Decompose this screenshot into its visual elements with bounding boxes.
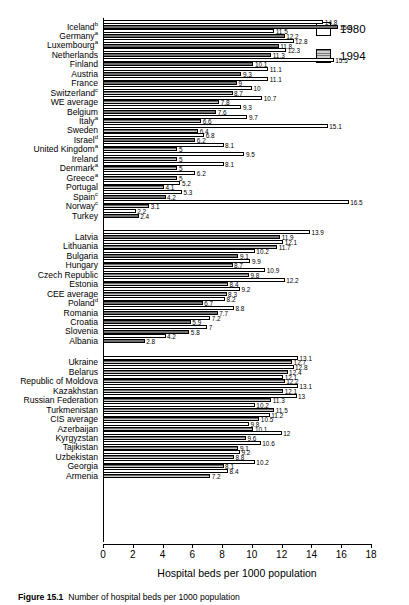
figure-caption: Figure 15.1 Number of hospital beds per … bbox=[18, 592, 398, 603]
bar-1994 bbox=[103, 311, 218, 315]
bar-1994 bbox=[103, 119, 201, 123]
bar-value-label: 13.9 bbox=[311, 231, 323, 237]
bar-value-label: 9.2 bbox=[241, 288, 250, 294]
bar-1980 bbox=[103, 209, 136, 213]
bar-value-label: 9.5 bbox=[246, 153, 255, 159]
bar-1980 bbox=[103, 334, 166, 338]
bar-1980 bbox=[103, 356, 298, 360]
bar-1994 bbox=[103, 129, 198, 133]
bar-1994 bbox=[103, 408, 274, 412]
bar-1980 bbox=[103, 413, 270, 417]
bar-1994 bbox=[103, 282, 228, 286]
bar-1994 bbox=[103, 379, 285, 383]
bar-value-label: 9.3 bbox=[243, 105, 252, 111]
x-tick-label: 8 bbox=[211, 549, 233, 560]
x-tick bbox=[163, 544, 164, 548]
bar-value-label: 7 bbox=[209, 325, 213, 331]
category-label-footnote: a bbox=[95, 30, 98, 36]
bar-1994 bbox=[103, 339, 145, 343]
bar-value-label: 8.2 bbox=[227, 297, 236, 303]
bar-1994 bbox=[103, 254, 238, 258]
bar-1994 bbox=[103, 427, 253, 431]
x-tick bbox=[341, 544, 342, 548]
bar-1980 bbox=[103, 39, 294, 43]
x-tick-label: 6 bbox=[181, 549, 203, 560]
bar-value-label: 15.1 bbox=[329, 124, 341, 130]
caption-text: Number of hospital beds per 1000 populat… bbox=[68, 592, 240, 602]
bar-value-label: 7.2 bbox=[212, 474, 221, 480]
bar-value-label: 6.8 bbox=[206, 134, 215, 140]
x-tick bbox=[103, 544, 104, 548]
category-label: Albania bbox=[69, 337, 98, 346]
category-label-footnote: d bbox=[95, 297, 98, 303]
bar-1994 bbox=[103, 100, 219, 104]
bar-1994 bbox=[103, 81, 237, 85]
bar-1994 bbox=[103, 301, 203, 305]
bar-1994 bbox=[103, 464, 224, 468]
bar-1980 bbox=[103, 249, 255, 253]
bar-1980 bbox=[103, 441, 261, 445]
bar-1994 bbox=[103, 157, 177, 161]
bar-value-label: 15.5 bbox=[335, 58, 347, 64]
bar-value-label: 8.1 bbox=[225, 143, 234, 149]
bar-value-label: 5.3 bbox=[183, 190, 192, 196]
bar-1980 bbox=[103, 375, 283, 379]
bar-1980 bbox=[103, 306, 234, 310]
bar-1980 bbox=[103, 133, 204, 137]
bar-value-label: 6.2 bbox=[197, 172, 206, 178]
category-label-footnote: a bbox=[95, 115, 98, 121]
category-label-footnote: a bbox=[95, 40, 98, 46]
bar-1980 bbox=[103, 152, 244, 156]
bar-1994 bbox=[103, 474, 210, 478]
bar-1994 bbox=[103, 62, 253, 66]
category-label-footnote: b bbox=[95, 21, 98, 27]
bar-1994 bbox=[103, 176, 177, 180]
x-tick-label: 4 bbox=[152, 549, 174, 560]
bar-1980 bbox=[103, 278, 285, 282]
bar-1994 bbox=[103, 53, 271, 57]
bar-1980 bbox=[103, 20, 323, 24]
category-label-footnote: a bbox=[95, 172, 98, 178]
bar-value-label: 13 bbox=[298, 394, 305, 400]
bar-1994 bbox=[103, 166, 177, 170]
bar-value-label: 2.4 bbox=[140, 214, 149, 220]
category-label-footnote: c bbox=[95, 200, 98, 206]
bar-1980 bbox=[103, 268, 265, 272]
bar-value-label: 12 bbox=[283, 432, 290, 438]
bar-1980 bbox=[103, 450, 240, 454]
bar-value-label: 12.2 bbox=[286, 278, 298, 284]
bar-value-label: 8.8 bbox=[236, 306, 245, 312]
bar-1994 bbox=[103, 44, 279, 48]
bar-value-label: 12.3 bbox=[288, 49, 300, 55]
x-tick bbox=[311, 544, 312, 548]
bar-1980 bbox=[103, 394, 297, 398]
caption-prefix: Figure bbox=[18, 592, 44, 602]
bar-value-label: 11.7 bbox=[279, 245, 291, 251]
x-tick bbox=[252, 544, 253, 548]
bar-1980 bbox=[103, 162, 224, 166]
category-label-footnote: a bbox=[95, 143, 98, 149]
x-tick-label: 0 bbox=[92, 549, 114, 560]
bar-value-label: 5.8 bbox=[191, 330, 200, 336]
bar-1994 bbox=[103, 330, 189, 334]
bar-1994 bbox=[103, 455, 234, 459]
bar-1994 bbox=[103, 25, 338, 29]
x-tick-label: 10 bbox=[241, 549, 263, 560]
bar-1994 bbox=[103, 235, 280, 239]
bar-value-label: 9.7 bbox=[249, 115, 258, 121]
category-label-footnote: c bbox=[95, 87, 98, 93]
bar-1980 bbox=[103, 200, 349, 204]
bar-value-label: 2.8 bbox=[146, 339, 155, 345]
bar-1994 bbox=[103, 147, 177, 151]
bar-value-label: 13.1 bbox=[300, 385, 312, 391]
bar-value-label: 11.1 bbox=[270, 77, 282, 83]
category-label-footnote: d bbox=[95, 134, 98, 140]
bar-1994 bbox=[103, 245, 277, 249]
bar-1994 bbox=[103, 138, 195, 142]
bar-value-label: 8.4 bbox=[230, 470, 239, 476]
bar-value-label: 10 bbox=[253, 87, 260, 93]
x-tick bbox=[222, 544, 223, 548]
bar-1980 bbox=[103, 143, 224, 147]
bar-1994 bbox=[103, 446, 238, 450]
bar-1994 bbox=[103, 72, 241, 76]
